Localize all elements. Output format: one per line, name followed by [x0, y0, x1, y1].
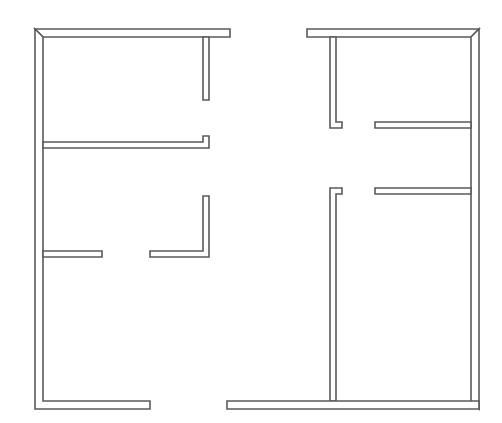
right-lower-vertical-wall [330, 188, 342, 401]
floor-plan [0, 0, 502, 423]
right-upper-partition [375, 122, 471, 128]
walls-group [35, 29, 479, 409]
outer-bottom-right-wall [227, 401, 479, 409]
outer-top-right-wall [307, 29, 479, 37]
right-upper-vertical-wall [330, 37, 342, 128]
outer-left-wall [35, 29, 150, 409]
left-top-room-right-stub [203, 37, 209, 100]
outer-right-wall [471, 29, 479, 409]
outer-top-left-wall [35, 29, 230, 37]
left-middle-partition [43, 136, 209, 148]
left-lower-partition-right [150, 196, 209, 257]
right-lower-partition [375, 188, 471, 194]
left-lower-partition-left [43, 251, 102, 257]
